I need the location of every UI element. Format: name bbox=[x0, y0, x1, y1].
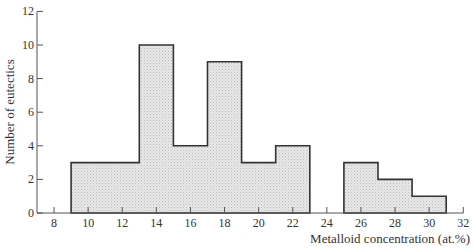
x-tick-label: 12 bbox=[116, 216, 128, 230]
x-tick-label: 20 bbox=[253, 216, 265, 230]
histogram-chart: 0246810128101214161820222426283032 Numbe… bbox=[0, 0, 473, 249]
y-tick-label: 10 bbox=[22, 38, 34, 52]
y-tick-label: 0 bbox=[28, 206, 34, 220]
y-tick-label: 2 bbox=[28, 172, 34, 186]
x-tick-label: 16 bbox=[184, 216, 196, 230]
x-tick-label: 22 bbox=[287, 216, 299, 230]
x-tick-label: 26 bbox=[355, 216, 367, 230]
histogram-bars bbox=[71, 45, 446, 213]
x-axis-title: Metalloid concentration (at.%) bbox=[310, 231, 470, 246]
x-tick-label: 28 bbox=[389, 216, 401, 230]
y-axis-title: Number of eutectics bbox=[2, 59, 17, 164]
x-tick-label: 30 bbox=[423, 216, 435, 230]
y-tick-label: 12 bbox=[22, 4, 34, 18]
y-tick-label: 6 bbox=[28, 105, 34, 119]
x-tick-label: 24 bbox=[321, 216, 333, 230]
x-tick-label: 8 bbox=[51, 216, 57, 230]
x-tick-label: 14 bbox=[150, 216, 162, 230]
x-tick-label: 32 bbox=[457, 216, 469, 230]
y-tick-label: 8 bbox=[28, 72, 34, 86]
histogram-bar-group bbox=[71, 45, 310, 213]
x-tick-label: 10 bbox=[82, 216, 94, 230]
histogram-bar-group bbox=[344, 163, 446, 213]
y-tick-label: 4 bbox=[28, 139, 34, 153]
x-tick-label: 18 bbox=[219, 216, 231, 230]
